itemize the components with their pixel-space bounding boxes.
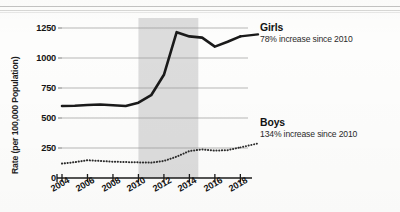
legend-item-boys: Boys 134% increase since 2010 <box>260 117 357 139</box>
y-tick-label: 750 <box>14 83 56 93</box>
leader-line-girls <box>240 34 258 36</box>
y-tick-label: 250 <box>14 143 56 153</box>
y-tick-label: 500 <box>14 113 56 123</box>
line-chart: Rate (per 100,000 Population) 0250500750… <box>0 0 400 212</box>
legend-label-girls: Girls <box>260 22 353 33</box>
y-tick-label: 1000 <box>14 53 56 63</box>
legend-item-girls: Girls 78% increase since 2010 <box>260 22 353 44</box>
legend-label-boys: Boys <box>260 117 357 128</box>
legend-note-boys: 134% increase since 2010 <box>260 129 357 139</box>
leader-line-boys <box>240 143 258 147</box>
y-tick-label: 1250 <box>14 23 56 33</box>
y-tick-label: 0 <box>14 173 56 183</box>
legend-note-girls: 78% increase since 2010 <box>260 34 353 44</box>
chart-page: Rate (per 100,000 Population) 0250500750… <box>0 0 400 212</box>
